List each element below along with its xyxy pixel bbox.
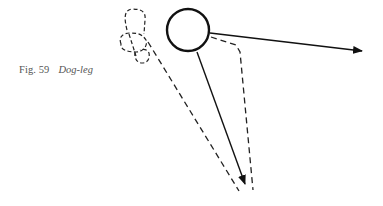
dog-leg-diagram	[0, 0, 383, 206]
dogleg-path	[211, 37, 253, 190]
figure-title: Dog-leg	[58, 64, 92, 75]
figure-caption: Fig. 59Dog-leg	[19, 64, 93, 75]
figure-number: Fig. 59	[19, 64, 49, 75]
ball	[167, 9, 209, 51]
cue-path-arrow	[197, 52, 245, 184]
ghost-ball-loops	[120, 9, 149, 63]
ghost-path	[148, 42, 239, 191]
direction-arrow	[210, 33, 362, 51]
